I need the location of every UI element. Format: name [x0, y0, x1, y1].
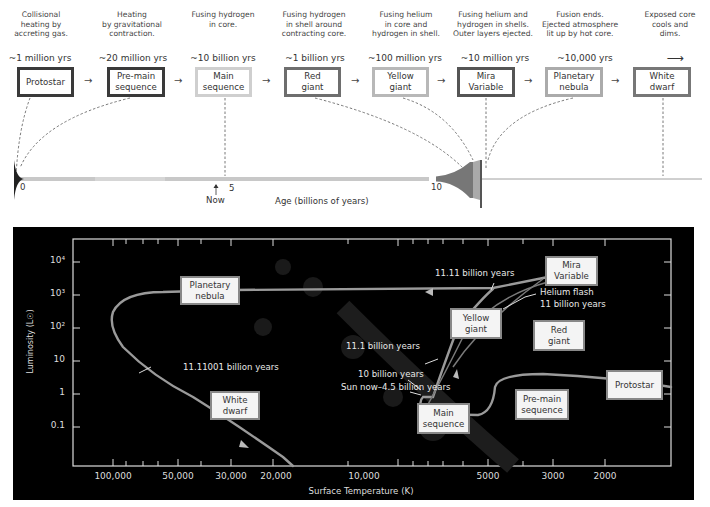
age-tick-10: 10	[431, 182, 442, 192]
now-label: Now	[206, 195, 225, 205]
hr-box-yellow-giant: Yellow giant	[450, 308, 502, 339]
hr-box-protostar: Protostar	[606, 370, 663, 400]
annotation-sun-now: Sun now–4.5 billion years	[341, 382, 451, 392]
y-tick-1: 1	[25, 387, 65, 397]
annotation-11-11001-billion: 11.11001 billion years	[183, 362, 279, 372]
x-tick-100000: 100,000	[83, 471, 143, 481]
x-tick-2000: 2000	[575, 471, 635, 481]
y-tick-1e4: 10⁴	[25, 255, 65, 265]
x-tick-20000: 20,000	[246, 471, 306, 481]
hr-box-main-sequence: Main sequence	[417, 403, 470, 434]
hr-diagram-panel: 10⁴ 10³ 10² 10 1 0.1 Luminosity (L☉) 100…	[13, 227, 694, 500]
x-tick-5000: 5000	[458, 471, 518, 481]
age-axis-label: Age (billions of years)	[275, 196, 369, 206]
annotation-11-1-billion: 11.1 billion years	[346, 341, 420, 351]
annotation-helium-flash: Helium flash	[540, 287, 594, 297]
age-tick-5: 5	[229, 183, 234, 193]
x-tick-3000: 3000	[523, 471, 583, 481]
y-tick-0-1: 0.1	[25, 420, 65, 430]
annotation-11-11-billion: 11.11 billion years	[435, 268, 514, 278]
hr-box-planetary-nebula: Planetary nebula	[180, 276, 240, 305]
age-timeline-graphic	[0, 0, 710, 220]
annotation-helium-flash-time: 11 billion years	[540, 299, 606, 309]
hr-box-pre-main-sequence: Pre-main sequence	[515, 389, 569, 420]
x-tick-50000: 50,000	[148, 471, 208, 481]
annotation-10-billion: 10 billion years	[358, 369, 424, 379]
hr-box-white-dwarf: White dwarf	[210, 391, 260, 420]
age-tick-0: 0	[20, 182, 25, 192]
hr-box-mira-variable: Mira Variable	[545, 256, 598, 286]
hr-box-red-giant: Red giant	[533, 320, 585, 351]
x-axis-label: Surface Temperature (K)	[261, 486, 461, 496]
y-axis-label: Luminosity (L☉)	[26, 297, 35, 387]
x-tick-10000: 10,000	[334, 471, 394, 481]
